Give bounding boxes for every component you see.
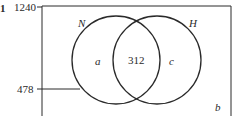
set-n-circle — [72, 16, 160, 104]
outside-region-label: b — [215, 102, 221, 113]
set-n-label: N — [78, 18, 85, 29]
region-c-label: c — [169, 56, 174, 67]
region-a-label: a — [95, 56, 101, 67]
intersection-value: 312 — [128, 55, 145, 66]
side-label: 478 — [17, 84, 34, 95]
question-number: 1 — [0, 3, 6, 14]
venn-diagram-canvas — [0, 0, 233, 116]
total-label: 1240 — [14, 2, 36, 13]
set-h-circle — [113, 16, 201, 104]
set-h-label: H — [189, 18, 197, 29]
